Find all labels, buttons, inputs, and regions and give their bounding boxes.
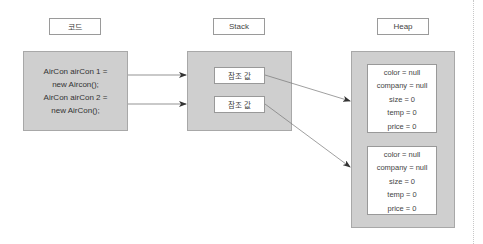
arrows-layer: [0, 0, 483, 244]
arrow-ref-1-to-heap-object-1: [265, 75, 350, 101]
arrow-ref-2-to-heap-object-2: [265, 104, 350, 167]
